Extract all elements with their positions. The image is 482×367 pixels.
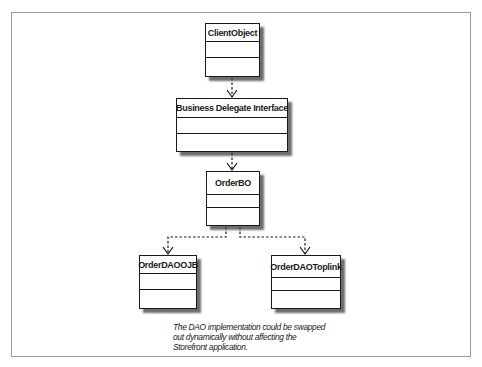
edge-delegate-to-bo: [227, 153, 237, 170]
class-box-business-delegate-interface[interactable]: Business Delegate Interface: [176, 98, 288, 152]
operations-compartment: [272, 291, 340, 308]
operations-compartment: [206, 58, 259, 76]
class-name: ClientObject: [206, 24, 259, 42]
annotation-line: The DAO implementation could be swapped: [173, 322, 373, 332]
attributes-compartment: [207, 195, 259, 208]
class-name: OrderDAOToplink: [272, 256, 340, 278]
annotation-line: Storefront application.: [173, 342, 373, 352]
class-box-order-dao-toplink[interactable]: OrderDAOToplink: [271, 255, 341, 309]
class-name: OrderBO: [207, 172, 259, 195]
operations-compartment: [177, 134, 287, 151]
attributes-compartment: [206, 42, 259, 58]
class-name: OrderDAOOJB: [140, 256, 196, 274]
attributes-compartment: [177, 118, 287, 134]
attributes-compartment: [272, 278, 340, 291]
class-box-client-object[interactable]: ClientObject: [205, 23, 260, 77]
operations-compartment: [207, 208, 259, 225]
edge-bo-to-ojb: [163, 227, 226, 254]
edge-bo-to-toplink: [240, 227, 310, 254]
class-box-order-bo[interactable]: OrderBO: [206, 171, 260, 226]
attributes-compartment: [140, 274, 196, 290]
annotation-line: out dynamically without affecting the: [173, 332, 373, 342]
diagram-annotation: The DAO implementation could be swapped …: [173, 322, 373, 352]
operations-compartment: [140, 290, 196, 308]
class-box-order-dao-ojb[interactable]: OrderDAOOJB: [139, 255, 197, 309]
class-name: Business Delegate Interface: [177, 99, 287, 118]
edge-client-to-delegate: [227, 78, 237, 97]
